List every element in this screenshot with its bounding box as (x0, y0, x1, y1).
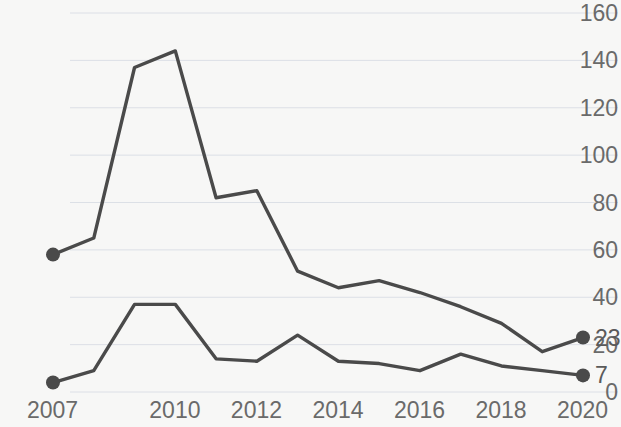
end-value-label-lower: 7 (595, 364, 608, 387)
end-value-label-upper: 23 (595, 327, 621, 350)
